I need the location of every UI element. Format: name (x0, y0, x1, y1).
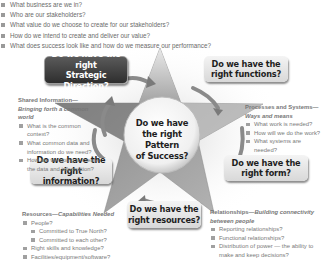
processes-systems-section: Processes and Systems—Ways and means Wha… (245, 103, 323, 155)
list-item: How will we do the work? (245, 129, 323, 138)
pattern-of-success-question: Do we have the right Pattern of Success? (127, 118, 197, 162)
list-item: Right skills and knowledge? (22, 244, 127, 253)
bullet-square-icon (19, 141, 23, 145)
bullet-square-icon (246, 131, 250, 135)
list-item: How are we going to create the data and … (18, 156, 100, 173)
list-item: What common data and information do we n… (18, 139, 100, 156)
bullet-square-icon (211, 245, 215, 249)
bullet-square-icon (246, 140, 250, 144)
bullet-square-icon (23, 221, 27, 225)
functions-box: Do we have the right functions? (204, 56, 288, 82)
form-box: Do we have the right form? (224, 155, 308, 181)
bullet-square-icon (23, 255, 27, 259)
list-item: Facilities/equipment/software? (22, 253, 127, 262)
section-heading: Shared Information—Bringing forth a comm… (18, 96, 100, 122)
resources-box: Do we have the right resources? (127, 201, 201, 228)
list-item: What work is needed? (245, 120, 323, 129)
list-item: How do we intend to create and deliver o… (0, 31, 323, 41)
bullet-square-icon (1, 34, 5, 38)
list-item: What systems are needed? (245, 137, 323, 154)
section-heading: Processes and Systems—Ways and means (245, 103, 323, 120)
bullet-square-icon (31, 230, 35, 234)
bullet-square-icon (23, 247, 27, 251)
list-item: Reporting relationships? (210, 225, 320, 234)
bullet-square-icon (1, 13, 5, 17)
bullet-square-icon (211, 228, 215, 232)
list-item: Committed to each other? (22, 236, 127, 245)
bullet-square-icon (1, 3, 5, 7)
bullet-square-icon (19, 159, 23, 163)
shared-information-section: Shared Information—Bringing forth a comm… (18, 96, 100, 173)
bullet-square-icon (19, 124, 23, 128)
bullet-square-icon (1, 44, 5, 48)
relationships-section: Relationships—Building connectivity betw… (210, 208, 320, 260)
section-heading: Relationships—Building connectivity betw… (210, 208, 320, 225)
list-item: Committed to True North? (22, 227, 127, 236)
bullet-square-icon (31, 238, 35, 242)
bullet-square-icon (211, 236, 215, 240)
bullet-square-icon (1, 23, 5, 27)
strategic-direction-box: Do we have the right Strategic Direction… (44, 56, 128, 84)
list-item: What business are we in? (0, 0, 323, 10)
strategic-direction-question-list: What business are we in? Who are our sta… (0, 0, 323, 51)
list-item: People? (22, 219, 127, 228)
list-item: What value do we choose to create for ou… (0, 20, 323, 30)
section-heading: Resources—Capabilities Needed (22, 210, 127, 219)
resources-section: Resources—Capabilities Needed People? Co… (22, 210, 127, 262)
list-item: Who are our stakeholders? (0, 10, 323, 20)
list-item: Functional relationships? (210, 234, 320, 243)
list-item: What is the common context? (18, 122, 100, 139)
bullet-square-icon (246, 123, 250, 127)
list-item: Distribution of power — the ability to m… (210, 242, 320, 259)
